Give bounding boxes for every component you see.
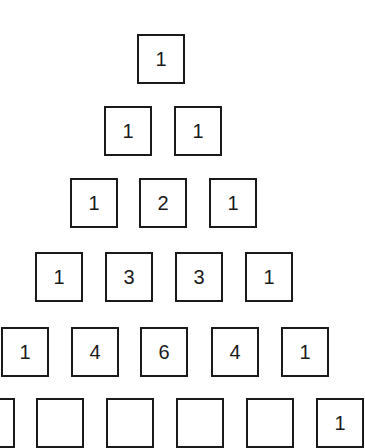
cell-r1-c0: 1 [104, 106, 152, 156]
cell-r4-c3: 4 [211, 327, 259, 377]
cell-r3-c0: 1 [35, 252, 83, 302]
cell-r4-c1: 4 [71, 327, 119, 377]
cell-r2-c2: 1 [209, 178, 257, 228]
cell-r1-c1: 1 [174, 106, 222, 156]
cell-r5-c3 [176, 398, 224, 448]
cell-r2-c0: 1 [70, 178, 118, 228]
cell-r0-c0: 1 [137, 34, 185, 84]
cell-r3-c3: 1 [245, 252, 293, 302]
cell-r3-c2: 3 [175, 252, 223, 302]
cell-r4-c0: 1 [1, 327, 49, 377]
cell-r2-c1: 2 [139, 178, 187, 228]
cell-r5-c4 [246, 398, 294, 448]
cell-r5-c1 [36, 398, 84, 448]
cell-r5-c0 [0, 398, 15, 448]
cell-r5-c5: 1 [316, 398, 364, 448]
cell-r5-c2 [106, 398, 154, 448]
cell-r4-c2: 6 [140, 327, 188, 377]
cell-r3-c1: 3 [105, 252, 153, 302]
cell-r4-c4: 1 [281, 327, 329, 377]
